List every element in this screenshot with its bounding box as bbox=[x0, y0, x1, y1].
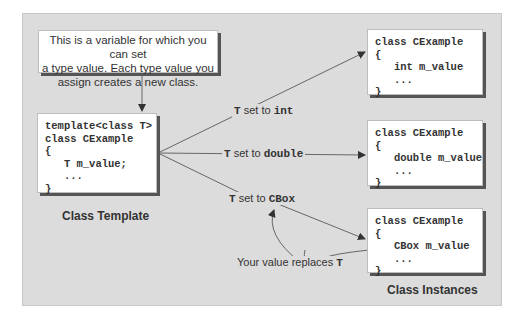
t-symbol: T bbox=[234, 105, 241, 117]
code-line: CBox m_value bbox=[375, 240, 482, 253]
arrow-label-int: T set to int bbox=[232, 104, 295, 117]
type-name: double bbox=[264, 148, 304, 160]
code-line: class CExample bbox=[45, 133, 156, 146]
code-line: T m_value; bbox=[45, 158, 156, 171]
code-line: } bbox=[45, 183, 156, 196]
code-line: ... bbox=[375, 253, 482, 266]
code-line: { bbox=[375, 140, 482, 153]
callout-line: a type value. Each type value you bbox=[39, 61, 217, 75]
instance-int-box: class CExample{ int m_value ...} bbox=[367, 29, 483, 95]
code-line: } bbox=[375, 86, 482, 99]
callout-line: This is a variable for which you can set bbox=[39, 33, 217, 61]
t-symbol: T bbox=[224, 148, 231, 160]
t-symbol: T bbox=[229, 193, 236, 205]
code-line: { bbox=[375, 49, 482, 62]
type-name: int bbox=[274, 105, 294, 117]
code-line: int m_value bbox=[375, 61, 482, 74]
t-symbol: T bbox=[336, 257, 343, 269]
class-template-caption: Class Template bbox=[62, 209, 149, 223]
code-line: class CExample bbox=[375, 36, 482, 49]
class-template-box: template<class T>class CExample{ T m_val… bbox=[37, 113, 157, 193]
code-line: template<class T> bbox=[45, 120, 156, 133]
label-text: set to bbox=[241, 104, 274, 116]
class-instances-caption: Class Instances bbox=[387, 283, 478, 297]
arrow-label-double: T set to double bbox=[222, 147, 305, 160]
code-line: } bbox=[375, 177, 482, 190]
code-line: double m_value bbox=[375, 152, 482, 165]
instance-double-box: class CExample{ double m_value ...} bbox=[367, 120, 483, 186]
label-text: set to bbox=[236, 192, 269, 204]
code-line: { bbox=[45, 145, 156, 158]
code-line: class CExample bbox=[375, 127, 482, 140]
callout-line: assign creates a new class. bbox=[39, 75, 217, 89]
label-text: set to bbox=[231, 147, 264, 159]
code-line: ... bbox=[375, 165, 482, 178]
replace-note: Your value replaces T bbox=[235, 256, 345, 269]
code-line: } bbox=[375, 265, 482, 278]
arrow-label-cbox: T set to CBox bbox=[227, 192, 297, 205]
note-text: Your value replaces bbox=[237, 256, 336, 268]
instance-cbox-box: class CExample{ CBox m_value ...} bbox=[367, 208, 483, 273]
type-name: CBox bbox=[269, 193, 295, 205]
type-variable-callout: This is a variable for which you can set… bbox=[38, 30, 218, 73]
code-line: { bbox=[375, 228, 482, 241]
code-line: ... bbox=[45, 170, 156, 183]
code-line: class CExample bbox=[375, 215, 482, 228]
code-line: ... bbox=[375, 74, 482, 87]
